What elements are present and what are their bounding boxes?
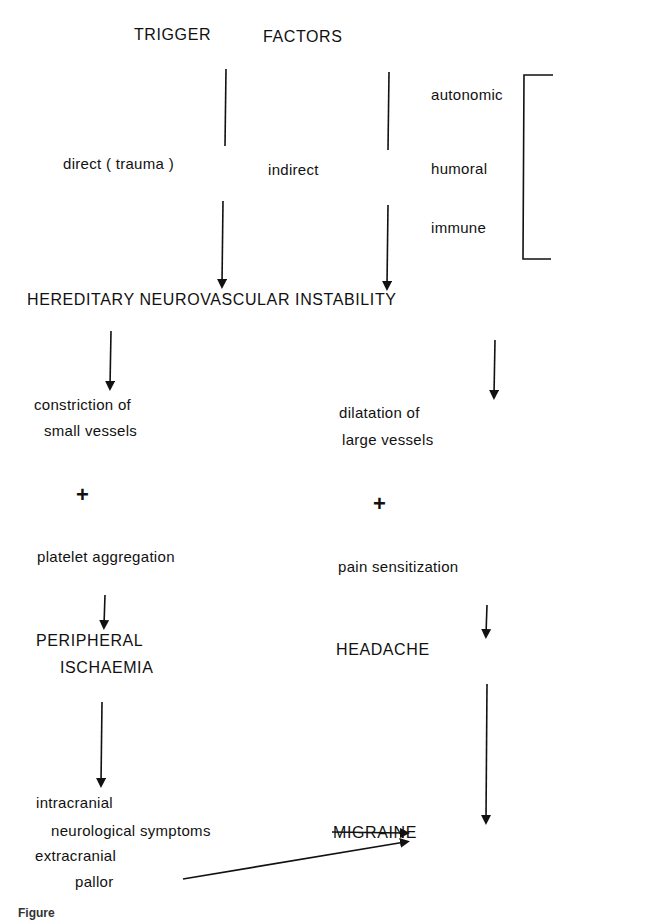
right-step1-line2: large vessels xyxy=(342,431,433,448)
factor-autonomic: autonomic xyxy=(431,86,503,103)
factor-immune: immune xyxy=(431,219,486,236)
right-step1-line1: dilatation of xyxy=(339,404,420,421)
header-trigger: TRIGGER xyxy=(134,26,211,44)
factor-humoral: humoral xyxy=(431,160,487,177)
left-result-line2: ISCHAEMIA xyxy=(60,659,153,677)
trigger-direct: direct ( trauma ) xyxy=(63,155,174,172)
right-step2: pain sensitization xyxy=(338,558,458,575)
left-result-line1: PERIPHERAL xyxy=(36,632,143,650)
right-result: HEADACHE xyxy=(336,641,430,659)
right-plus: + xyxy=(373,491,386,517)
symptom-extracranial: extracranial xyxy=(35,847,116,864)
header-factors: FACTORS xyxy=(263,28,342,46)
symptom-intracranial: intracranial xyxy=(36,794,113,811)
central-node: HEREDITARY NEUROVASCULAR INSTABILITY xyxy=(27,291,397,309)
symptom-neurological: neurological symptoms xyxy=(51,822,211,839)
trigger-indirect: indirect xyxy=(268,161,319,178)
left-step1-line1: constriction of xyxy=(34,396,131,413)
left-step1-line2: small vessels xyxy=(44,422,137,439)
left-plus: + xyxy=(76,482,89,508)
symptom-pallor: pallor xyxy=(75,873,114,890)
outcome-migraine: MIGRAINE xyxy=(333,824,417,842)
left-step2: platelet aggregation xyxy=(37,548,175,565)
figure-caption: Figure xyxy=(18,906,55,920)
